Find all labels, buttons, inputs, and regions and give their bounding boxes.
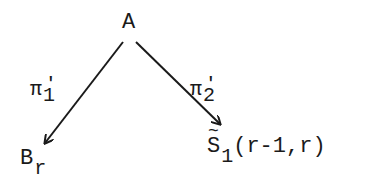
pi2-prime: ' xyxy=(206,76,216,92)
node-s-base-wrap: ~ S xyxy=(207,136,220,158)
arrow-pi1 xyxy=(45,42,123,143)
node-a: A xyxy=(122,12,135,34)
node-b-subscript: r xyxy=(34,157,46,180)
pi2-symbol: π xyxy=(190,78,202,101)
pi1-symbol: π xyxy=(30,78,42,101)
tilde-accent: ~ xyxy=(208,122,219,140)
node-a-label: A xyxy=(122,10,135,35)
edge-label-pi1: π1 ' xyxy=(30,80,55,100)
edge-label-pi2: π2 ' xyxy=(190,80,215,100)
pi1-prime: ' xyxy=(46,76,56,92)
node-s-args: (r-1,r) xyxy=(233,134,325,159)
node-b-r: Br xyxy=(20,148,46,170)
node-b-base: B xyxy=(20,146,33,171)
node-s-subscript: 1 xyxy=(221,145,233,168)
node-s-tilde: ~ S 1(r-1,r) xyxy=(207,136,326,158)
